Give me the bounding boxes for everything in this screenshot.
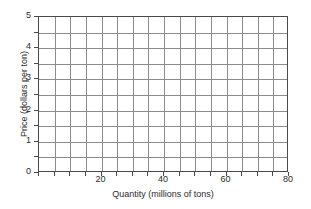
x-axis-tick (132, 172, 133, 176)
y-axis-tick (34, 110, 38, 111)
y-axis-tick (34, 125, 38, 126)
gridline-vertical (117, 17, 118, 171)
gridline-vertical (55, 17, 56, 171)
gridline-vertical (242, 17, 243, 171)
y-axis-tick (34, 172, 38, 173)
x-axis-tick (54, 172, 55, 176)
y-axis-tick (34, 94, 38, 95)
y-axis-tick (34, 156, 38, 157)
gridline-horizontal (39, 111, 287, 112)
y-axis-tick (34, 78, 38, 79)
x-axis-tick (194, 172, 195, 176)
y-axis-tick (34, 141, 38, 142)
x-axis-tick (179, 172, 180, 176)
plot-area[interactable] (38, 16, 288, 172)
gridline-vertical (211, 17, 212, 171)
gridline-horizontal (39, 33, 287, 34)
gridline-vertical (258, 17, 259, 171)
gridline-horizontal (39, 64, 287, 65)
gridline-vertical (86, 17, 87, 171)
gridline-horizontal (39, 48, 287, 49)
chart-figure: 20406080012345 Quantity (millions of ton… (0, 0, 311, 209)
x-axis-tick-label: 20 (86, 174, 116, 185)
gridline-vertical (102, 17, 103, 171)
gridline-horizontal (39, 157, 287, 158)
gridline-vertical (148, 17, 149, 171)
gridline-vertical (133, 17, 134, 171)
x-axis-tick-label: 80 (273, 174, 303, 185)
y-axis-tick (34, 32, 38, 33)
x-axis-tick (257, 172, 258, 176)
gridline-horizontal (39, 95, 287, 96)
gridline-vertical (70, 17, 71, 171)
x-axis-tick (38, 172, 39, 176)
y-axis-title: Price (dollars per ton) (19, 16, 29, 172)
y-axis-tick (34, 63, 38, 64)
y-axis-tick (34, 16, 38, 17)
gridline-horizontal (39, 126, 287, 127)
gridline-horizontal (39, 79, 287, 80)
x-axis-tick (241, 172, 242, 176)
x-axis-tick-label: 60 (211, 174, 241, 185)
x-axis-tick (116, 172, 117, 176)
gridline-vertical (195, 17, 196, 171)
gridline-vertical (180, 17, 181, 171)
x-axis-tick (69, 172, 70, 176)
x-axis-title: Quantity (millions of tons) (38, 189, 288, 199)
gridline-vertical (273, 17, 274, 171)
gridline-vertical (164, 17, 165, 171)
y-axis-tick (34, 47, 38, 48)
x-axis-tick-label: 40 (148, 174, 178, 185)
gridline-horizontal (39, 142, 287, 143)
gridline-vertical (227, 17, 228, 171)
